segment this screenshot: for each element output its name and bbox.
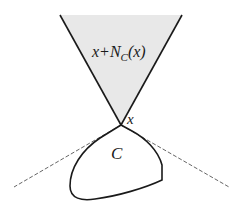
convex-set-label: C	[111, 145, 122, 162]
normal-cone-label: x+NC(x)	[92, 44, 146, 63]
cone-label-prefix: x+N	[92, 43, 121, 60]
cone-label-suffix: (x)	[128, 43, 146, 60]
normal-cone-region	[60, 15, 182, 125]
normal-cone-diagram	[0, 0, 244, 206]
cone-label-subscript: C	[121, 51, 128, 63]
apex-point-label: x	[127, 112, 134, 127]
